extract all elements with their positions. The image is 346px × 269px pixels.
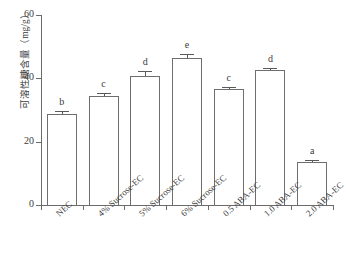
- x-tick: [83, 205, 84, 210]
- x-tick: [41, 205, 42, 210]
- significance-label-5: c: [219, 72, 239, 83]
- y-tick-20: 20: [36, 142, 41, 143]
- x-tick: [166, 205, 167, 210]
- significance-label-2: c: [94, 78, 114, 89]
- x-tick: [250, 205, 251, 210]
- x-tick: [208, 205, 209, 210]
- significance-label-3: d: [135, 56, 155, 67]
- significance-label-6: d: [260, 53, 280, 64]
- x-tick: [124, 205, 125, 210]
- bar-2: [89, 96, 119, 205]
- y-tick-label: 40: [24, 71, 34, 82]
- chart-figure: 可溶性糖含量（mg/g） 0204060 bcdecda NEC4% Sucro…: [0, 0, 346, 269]
- significance-label-7: a: [302, 145, 322, 156]
- y-axis-label: 可溶性糖含量（mg/g）: [17, 0, 35, 129]
- error-bar-cap: [263, 68, 277, 69]
- plot-area: 0204060 bcdecda NEC4% Sucrose-EC5% Sucro…: [41, 15, 333, 205]
- error-bar-cap: [305, 160, 319, 161]
- significance-label-4: e: [177, 39, 197, 50]
- error-bar-cap: [138, 71, 152, 72]
- y-tick-label: 0: [29, 198, 34, 209]
- y-axis-line: [41, 15, 42, 205]
- significance-label-1: b: [52, 96, 72, 107]
- error-bar-cap: [97, 93, 111, 94]
- x-tick: [291, 205, 292, 210]
- error-bar-cap: [55, 111, 69, 112]
- y-tick-40: 40: [36, 78, 41, 79]
- y-tick-60: 60: [36, 15, 41, 16]
- y-tick-label: 20: [24, 135, 34, 146]
- error-bar-cap: [180, 54, 194, 55]
- y-tick-label: 60: [24, 8, 34, 19]
- bar-1: [47, 114, 77, 205]
- x-tick: [333, 205, 334, 210]
- error-bar-cap: [222, 87, 236, 88]
